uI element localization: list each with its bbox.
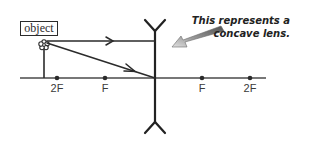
label-f-left: F (102, 83, 109, 94)
lens-annotation: This represents a concave lens. (170, 14, 290, 40)
label-f-right: F (199, 83, 206, 94)
object-label: object (20, 21, 58, 36)
annotation-line-1: This represents a (170, 14, 290, 27)
annotation-line-2: concave lens. (170, 27, 290, 40)
focal-dot-f-left (103, 76, 108, 81)
focal-dot-2f-left (55, 76, 60, 81)
label-2f-left: 2F (51, 83, 64, 94)
parallel-ray (47, 37, 155, 45)
label-2f-right: 2F (244, 83, 257, 94)
center-ray (47, 43, 155, 78)
focal-dot-2f-right (248, 76, 253, 81)
focal-dot-f-right (200, 76, 205, 81)
